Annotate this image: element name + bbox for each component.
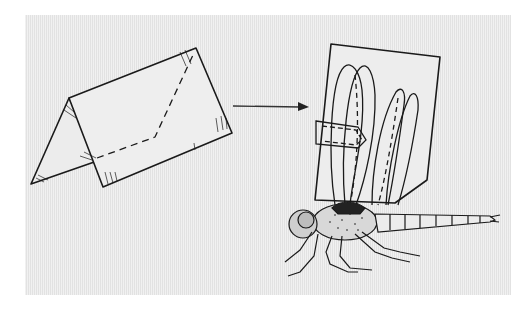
figure-canvas: Folded paper tent transforms into a rect… [0, 0, 529, 311]
illustration [0, 0, 529, 311]
folded-tent-drawing [31, 48, 232, 187]
dragonfly-drawing [285, 202, 500, 276]
arrow-right-icon [233, 102, 309, 111]
